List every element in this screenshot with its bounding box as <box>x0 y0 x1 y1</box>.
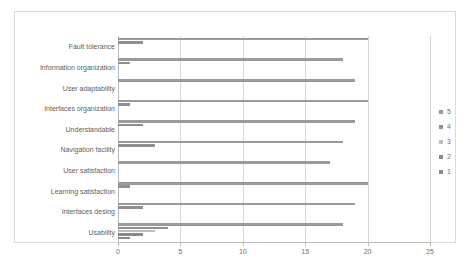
gridline-25 <box>430 36 431 242</box>
y-category-label: Interfaces organization <box>44 105 115 112</box>
bar <box>118 230 155 233</box>
x-axis-line <box>118 242 431 243</box>
bar <box>118 227 168 230</box>
x-tick-label: 0 <box>116 248 120 255</box>
bar <box>118 120 355 123</box>
bar <box>118 62 130 65</box>
bar <box>118 100 368 103</box>
legend-swatch-icon <box>439 110 443 114</box>
bar <box>118 161 330 164</box>
y-category-label: Fault tolerance <box>69 43 115 50</box>
chart-legend: 54321 <box>439 104 471 179</box>
plot-area <box>118 36 430 242</box>
legend-swatch-icon <box>439 125 443 129</box>
legend-label: 4 <box>447 123 451 130</box>
bar <box>118 233 143 236</box>
chart-frame: Fault toleranceInformation organizationU… <box>14 11 456 243</box>
legend-item[interactable]: 2 <box>439 149 471 164</box>
legend-swatch-icon <box>439 170 443 174</box>
bar <box>118 141 343 144</box>
y-category-label: Navigation facility <box>61 146 115 153</box>
y-category-label: User adaptability <box>63 84 115 91</box>
bar <box>118 206 143 209</box>
legend-label: 2 <box>447 153 451 160</box>
legend-label: 1 <box>447 168 451 175</box>
bar <box>118 41 143 44</box>
x-tick-label: 25 <box>426 248 434 255</box>
bar <box>118 144 155 147</box>
bar <box>118 38 368 41</box>
legend-item[interactable]: 5 <box>439 104 471 119</box>
legend-item[interactable]: 3 <box>439 134 471 149</box>
y-category-label: Information organization <box>40 63 115 70</box>
x-tick-label: 10 <box>239 248 247 255</box>
bar <box>118 103 130 106</box>
bar <box>118 223 343 226</box>
y-category-label: Usability <box>89 228 115 235</box>
x-tick-label: 20 <box>364 248 372 255</box>
legend-item[interactable]: 4 <box>439 119 471 134</box>
y-category-label: Understandable <box>66 125 115 132</box>
chart-screenshot: Fault toleranceInformation organizationU… <box>0 0 471 262</box>
legend-label: 5 <box>447 108 451 115</box>
bar <box>118 203 355 206</box>
legend-swatch-icon <box>439 155 443 159</box>
legend-swatch-icon <box>439 140 443 144</box>
x-tick-label: 15 <box>301 248 309 255</box>
bar <box>118 124 143 127</box>
y-axis-labels: Fault toleranceInformation organizationU… <box>33 36 115 242</box>
bar <box>118 185 130 188</box>
x-tick-label: 5 <box>178 248 182 255</box>
legend-item[interactable]: 1 <box>439 164 471 179</box>
bar <box>118 79 355 82</box>
y-category-label: Interfaces desing <box>62 208 115 215</box>
legend-label: 3 <box>447 138 451 145</box>
bar <box>118 58 343 61</box>
y-category-label: User satisfaction <box>63 166 115 173</box>
bar <box>118 237 130 240</box>
y-category-label: Learning satisfaction <box>51 187 115 194</box>
bar <box>118 182 368 185</box>
